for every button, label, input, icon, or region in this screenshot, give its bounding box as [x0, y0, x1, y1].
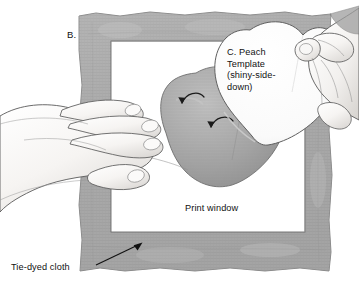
- tie-dyed-cloth-label: Tie-dyed cloth: [11, 262, 70, 273]
- figure-illustration: [0, 0, 359, 285]
- peach-template-caption: C. Peach Template (shiny-side- down): [227, 47, 276, 93]
- figure-panel-b: B. C. Peach Template (shiny-side- down) …: [0, 0, 359, 285]
- print-window-label: Print window: [185, 203, 238, 214]
- right-hand-thumbnail: [300, 44, 313, 55]
- panel-label: B.: [67, 29, 76, 40]
